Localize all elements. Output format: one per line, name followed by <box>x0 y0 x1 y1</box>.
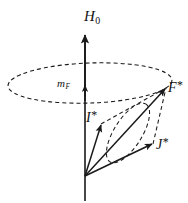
precession-ellipse-small <box>98 97 158 170</box>
F-base: F <box>168 80 177 95</box>
mF-base: m <box>57 77 65 89</box>
F-star-vector-label: F* <box>168 80 183 95</box>
H0-base: H <box>84 8 95 24</box>
J-star-glyph: * <box>163 135 169 149</box>
precession-ellipse-large <box>7 60 172 106</box>
J-star-vector-arrow <box>85 144 152 176</box>
mF-subscript: F <box>65 83 69 91</box>
H0-subscript: 0 <box>95 15 100 26</box>
F-star-glyph: * <box>177 78 183 92</box>
magnetic-field-axis-label: H0 <box>84 9 100 26</box>
J-star-vector-label: J* <box>156 137 169 152</box>
magnetic-quantum-number-label: mF <box>57 78 70 91</box>
vector-diagram-canvas <box>0 0 188 203</box>
I-base: I <box>86 110 91 125</box>
I-star-vector-label: I* <box>86 110 97 125</box>
J-base: J <box>156 137 162 152</box>
vector-diagram-figure: H0 mF F* I* J* <box>0 0 188 203</box>
F-star-vector-arrow <box>85 89 165 176</box>
I-star-glyph: * <box>91 108 97 122</box>
